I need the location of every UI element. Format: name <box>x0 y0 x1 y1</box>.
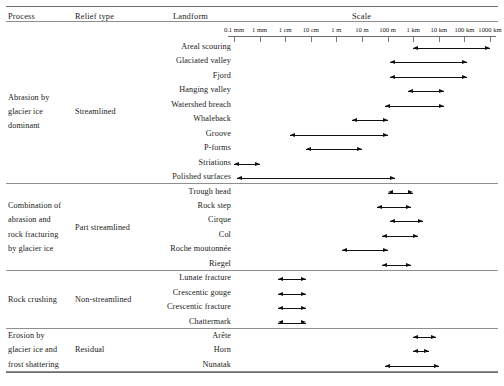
arrowhead-right-icon <box>406 205 411 209</box>
process-label: abrasion and <box>8 215 51 224</box>
arrowhead-left-icon <box>390 219 395 223</box>
landform-label: Groove <box>206 129 231 138</box>
landform-label: Lunate fracture <box>179 273 231 282</box>
scale-range-arrow <box>385 106 444 107</box>
relief-type-label: Non-streamlined <box>75 295 132 304</box>
axis-tick-label: 1 km <box>407 26 420 33</box>
arrowhead-right-icon <box>406 263 411 267</box>
landform-label: Crescentic fracture <box>167 302 231 311</box>
arrowhead-left-icon <box>413 46 418 50</box>
arrowhead-right-icon <box>301 292 306 296</box>
arrowhead-left-icon <box>390 75 395 79</box>
landform-label: Riegel <box>209 259 231 268</box>
arrowhead-left-icon <box>413 335 418 339</box>
arrowhead-right-icon <box>301 277 306 281</box>
axis-tick-label: 10 km <box>430 26 447 33</box>
axis-tick <box>234 37 235 42</box>
arrowhead-right-icon <box>462 75 467 79</box>
arrowhead-right-icon <box>424 349 429 353</box>
axis-tick <box>388 37 389 42</box>
horizontal-rule <box>6 21 498 22</box>
landform-label: Striations <box>199 158 231 167</box>
arrowhead-right-icon <box>390 176 395 180</box>
scale-range-arrow <box>237 178 396 179</box>
landform-label: Horn <box>214 345 231 354</box>
process-label: Rock crushing <box>8 295 57 304</box>
axis-tick <box>413 37 414 42</box>
arrowhead-left-icon <box>382 234 387 238</box>
arrowhead-right-icon <box>431 335 436 339</box>
arrowhead-left-icon <box>306 147 311 151</box>
arrowhead-left-icon <box>413 349 418 353</box>
landform-label: Col <box>219 230 231 239</box>
arrowhead-right-icon <box>383 248 388 252</box>
arrowhead-left-icon <box>377 205 382 209</box>
process-label: glacier ice <box>8 107 43 116</box>
arrowhead-left-icon <box>408 89 413 93</box>
arrowhead-left-icon <box>278 320 283 324</box>
scale-range-arrow <box>390 77 467 78</box>
horizontal-rule <box>6 6 498 7</box>
arrowhead-right-icon <box>485 46 490 50</box>
process-label: rock fracturing <box>8 230 58 239</box>
glacial-landform-scale-table: Process Relief type Landform Scale 0.1 m… <box>0 0 504 386</box>
landform-label: Crescentic gouge <box>173 288 231 297</box>
arrowhead-left-icon <box>234 162 239 166</box>
landform-label: Chattermark <box>189 317 231 326</box>
landform-label: Cirque <box>208 215 231 224</box>
arrowhead-right-icon <box>301 320 306 324</box>
arrowhead-right-icon <box>434 364 439 368</box>
arrowhead-left-icon <box>278 292 283 296</box>
arrowhead-left-icon <box>390 60 395 64</box>
landform-label: Areal scouring <box>181 42 231 51</box>
arrowhead-left-icon <box>385 364 390 368</box>
landform-label: Arête <box>212 331 231 340</box>
process-label: Abrasion by <box>8 93 49 102</box>
arrowhead-right-icon <box>383 118 388 122</box>
horizontal-rule <box>6 328 498 329</box>
process-label: dominant <box>8 121 40 130</box>
axis-tick <box>362 37 363 42</box>
landform-label: Watershed breach <box>171 100 231 109</box>
landform-label: Fjord <box>213 71 231 80</box>
axis-tick <box>336 37 337 42</box>
arrowhead-left-icon <box>352 118 357 122</box>
process-label: glacier ice and <box>8 345 57 354</box>
horizontal-rule <box>6 270 498 271</box>
axis-tick-label: 1 m <box>331 26 341 33</box>
landform-label: Hanging valley <box>179 85 231 94</box>
arrowhead-right-icon <box>439 89 444 93</box>
arrowhead-left-icon <box>278 277 283 281</box>
arrowhead-right-icon <box>357 147 362 151</box>
axis-tick <box>285 37 286 42</box>
relief-type-label: Residual <box>75 345 104 354</box>
scale-range-arrow <box>342 250 388 251</box>
process-label: Erosion by <box>8 331 45 340</box>
arrowhead-left-icon <box>342 248 347 252</box>
scale-range-arrow <box>413 48 490 49</box>
axis-tick-label: 10 cm <box>303 26 319 33</box>
arrowhead-right-icon <box>301 306 306 310</box>
arrowhead-left-icon <box>388 190 393 194</box>
axis-tick <box>311 37 312 42</box>
arrowhead-left-icon <box>278 306 283 310</box>
axis-tick-label: 1 mm <box>252 26 267 33</box>
landform-label: Polished surfaces <box>172 172 231 181</box>
process-label: Combination of <box>8 201 61 210</box>
axis-tick <box>490 37 491 42</box>
scale-range-arrow <box>306 149 362 150</box>
landform-label: P-forms <box>204 143 231 152</box>
arrowhead-right-icon <box>462 60 467 64</box>
horizontal-rule <box>6 372 498 373</box>
axis-tick <box>439 37 440 42</box>
axis-tick-label: 100 m <box>379 26 396 33</box>
axis-tick <box>260 37 261 42</box>
arrowhead-right-icon <box>383 133 388 137</box>
scale-range-arrow <box>385 366 439 367</box>
axis-tick-label: 10 m <box>355 26 368 33</box>
axis-tick-label: 1000 km <box>478 26 501 33</box>
arrowhead-right-icon <box>413 234 418 238</box>
arrowhead-right-icon <box>408 190 413 194</box>
relief-type-label: Part streamlined <box>75 223 130 232</box>
axis-tick <box>464 37 465 42</box>
